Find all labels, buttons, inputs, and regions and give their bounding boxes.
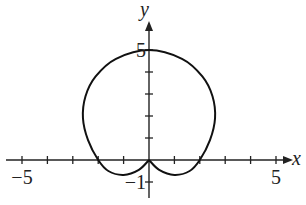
polar-curve-chart: x y −55−15: [0, 0, 306, 205]
x-tick-label: 5: [271, 166, 281, 188]
y-axis-label: y: [138, 0, 149, 21]
y-tick-label: 5: [136, 39, 146, 61]
x-axis-label: x: [291, 147, 301, 169]
x-tick-label: −5: [11, 166, 32, 188]
y-tick-label: −1: [125, 171, 146, 193]
axes: [6, 21, 293, 198]
y-axis-arrow: [145, 21, 153, 31]
